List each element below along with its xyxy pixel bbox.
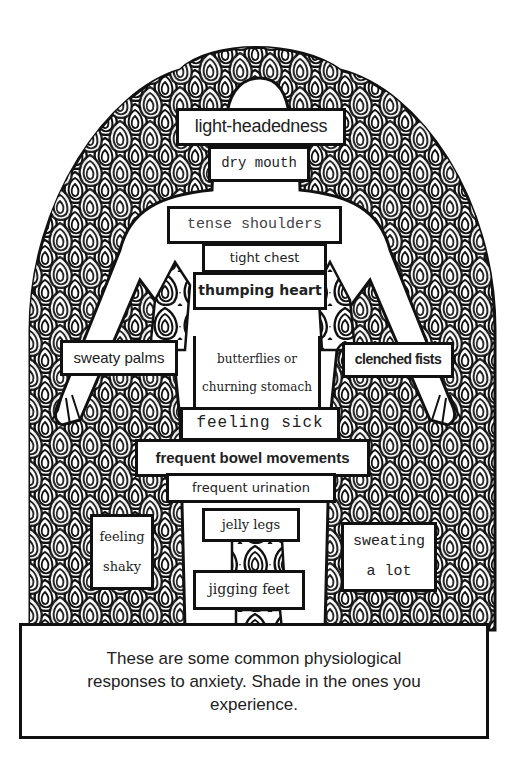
label-text: feeling sick: [196, 415, 323, 433]
label-text-line-1: sweating: [353, 527, 425, 557]
label-butterflies-or-churning-stomach[interactable]: butterflies or churning stomach: [193, 336, 321, 410]
label-text-line-1: butterflies or: [217, 345, 297, 373]
label-text-line-1: feeling: [99, 522, 144, 552]
label-text: thumping heart: [198, 283, 321, 298]
caption-text: These are some common physiological resp…: [70, 647, 438, 716]
label-sweaty-palms[interactable]: sweaty palms: [60, 340, 178, 376]
label-text: jigging feet: [208, 582, 289, 597]
label-text: tight chest: [230, 251, 300, 265]
label-text-line-2: churning stomach: [202, 373, 312, 401]
label-clenched-fists[interactable]: clenched fists: [342, 342, 454, 378]
label-text: dry mouth: [221, 156, 297, 171]
label-frequent-bowel-movements[interactable]: frequent bowel movements: [135, 439, 370, 477]
label-thumping-heart[interactable]: thumping heart: [193, 272, 327, 310]
label-dry-mouth[interactable]: dry mouth: [208, 146, 310, 182]
label-text: clenched fists: [355, 352, 441, 367]
label-tight-chest[interactable]: tight chest: [202, 243, 327, 273]
label-text: tense shoulders: [187, 217, 322, 234]
label-text: frequent bowel movements: [155, 450, 349, 467]
label-feeling-sick[interactable]: feeling sick: [180, 407, 340, 441]
label-text-line-2: a lot: [366, 557, 411, 587]
label-sweating-a-lot[interactable]: sweating a lot: [341, 522, 437, 592]
instructions-caption: These are some common physiological resp…: [19, 623, 489, 739]
label-text: light-headedness: [195, 117, 327, 137]
label-text: jelly legs: [222, 518, 280, 532]
label-text: sweaty palms: [74, 350, 165, 367]
label-light-headedness[interactable]: light-headedness: [176, 108, 346, 146]
label-jigging-feet[interactable]: jigging feet: [193, 570, 305, 610]
label-text-line-2: shaky: [103, 552, 141, 582]
label-feeling-shaky[interactable]: feeling shaky: [90, 514, 154, 590]
label-jelly-legs[interactable]: jelly legs: [202, 508, 300, 542]
label-tense-shoulders[interactable]: tense shoulders: [167, 206, 342, 244]
label-frequent-urination[interactable]: frequent urination: [166, 473, 336, 503]
label-text: frequent urination: [192, 481, 310, 495]
